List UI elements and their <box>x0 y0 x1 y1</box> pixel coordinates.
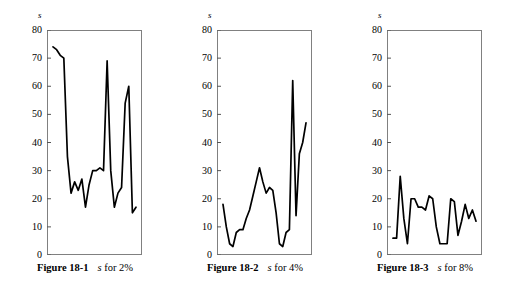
y-axis-tick-label: 50 <box>356 109 382 119</box>
y-axis-title: s <box>208 10 212 20</box>
figure-caption-label: Figure 18-2 <box>207 262 258 273</box>
figure-caption-label: Figure 18-3 <box>377 262 428 273</box>
figure-caption-variable: s <box>97 262 101 273</box>
figure-row: s01020304050607080Figure 18-1s for 2%s01… <box>0 0 515 292</box>
y-axis-tick-label: 10 <box>16 222 42 232</box>
y-axis-tick-label: 50 <box>16 109 42 119</box>
chart-svg <box>217 30 312 255</box>
figure-caption-variable: s <box>267 262 271 273</box>
y-axis-tick-label: 0 <box>186 250 212 260</box>
figure-caption: Figure 18-2s for 4% <box>170 262 340 274</box>
y-axis-tick-label: 10 <box>186 222 212 232</box>
plot-frame <box>218 31 312 255</box>
y-axis-tick-label: 40 <box>186 138 212 148</box>
y-axis-tick-label: 40 <box>16 138 42 148</box>
y-axis-tick-label: 70 <box>186 53 212 63</box>
y-axis-tick-label: 80 <box>16 25 42 35</box>
y-axis-tick-label: 80 <box>186 25 212 35</box>
y-axis-title: s <box>378 10 382 20</box>
figure-caption-label: Figure 18-1 <box>37 262 88 273</box>
y-axis-tick-label: 70 <box>356 53 382 63</box>
y-axis-tick-label: 20 <box>356 194 382 204</box>
figure-caption: Figure 18-1s for 2% <box>0 262 170 274</box>
y-axis-tick-label: 80 <box>356 25 382 35</box>
figure-caption-description: for 8% <box>444 262 473 273</box>
y-axis-tick-label: 60 <box>356 81 382 91</box>
figure-caption-description: for 2% <box>104 262 133 273</box>
y-axis-tick-label: 50 <box>186 109 212 119</box>
y-axis-tick-label: 60 <box>16 81 42 91</box>
plot-frame <box>388 31 482 255</box>
figure-panel: s01020304050607080Figure 18-3s for 8% <box>340 0 510 292</box>
chart-plot-area <box>47 30 142 255</box>
y-axis-tick-label: 0 <box>16 250 42 260</box>
chart-svg <box>387 30 482 255</box>
y-axis-tick-label: 60 <box>186 81 212 91</box>
figure-caption-variable: s <box>437 262 441 273</box>
figure-caption: Figure 18-3s for 8% <box>340 262 510 274</box>
y-axis-tick-label: 10 <box>356 222 382 232</box>
chart-plot-area <box>387 30 482 255</box>
chart-plot-area <box>217 30 312 255</box>
y-axis-tick-label: 30 <box>16 166 42 176</box>
figure-panel: s01020304050607080Figure 18-2s for 4% <box>170 0 340 292</box>
plot-frame <box>48 31 142 255</box>
y-axis-tick-label: 30 <box>356 166 382 176</box>
y-axis-tick-label: 20 <box>186 194 212 204</box>
figure-caption-description: for 4% <box>274 262 303 273</box>
y-axis-tick-label: 20 <box>16 194 42 204</box>
figure-panel: s01020304050607080Figure 18-1s for 2% <box>0 0 170 292</box>
chart-svg <box>47 30 142 255</box>
y-axis-tick-label: 70 <box>16 53 42 63</box>
y-axis-tick-label: 30 <box>186 166 212 176</box>
y-axis-tick-label: 0 <box>356 250 382 260</box>
y-axis-tick-label: 40 <box>356 138 382 148</box>
y-axis-title: s <box>38 10 42 20</box>
